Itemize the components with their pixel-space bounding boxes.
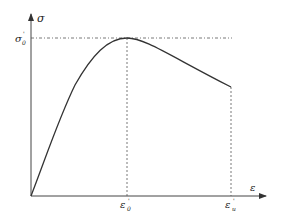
svg-text:': ' xyxy=(23,30,25,37)
ultimate-strain-label: ε u ' xyxy=(225,197,236,212)
diagram-canvas: σ ε σ 0 ' ε 0 ' ε u ' xyxy=(0,0,281,221)
x-axis-label: ε xyxy=(250,182,255,193)
svg-text:0: 0 xyxy=(127,205,131,212)
svg-text:ε: ε xyxy=(225,199,230,210)
svg-text:ε: ε xyxy=(120,199,125,210)
svg-text:': ' xyxy=(128,197,130,204)
y-axis-label: σ xyxy=(37,12,45,25)
svg-text:u: u xyxy=(232,205,236,212)
peak-stress-label: σ 0 ' xyxy=(15,30,26,46)
stress-strain-curve xyxy=(31,38,231,196)
svg-text:': ' xyxy=(233,197,235,204)
svg-text:0: 0 xyxy=(22,39,26,46)
stress-strain-diagram: σ ε σ 0 ' ε 0 ' ε u ' xyxy=(0,0,281,221)
peak-strain-label: ε 0 ' xyxy=(120,197,131,212)
